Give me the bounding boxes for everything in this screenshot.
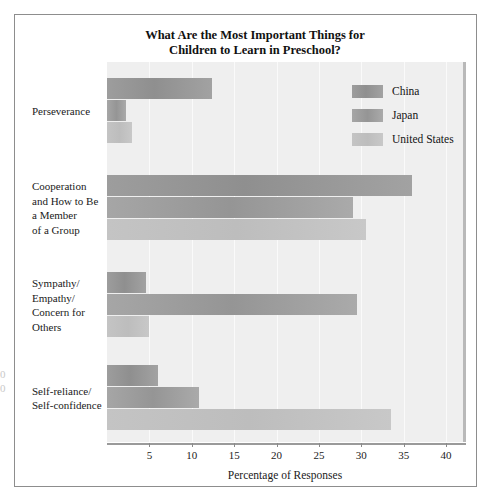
tick-mark-35 — [404, 443, 405, 447]
tick-mark-30 — [361, 443, 362, 447]
tick-mark-5 — [149, 443, 150, 447]
x-tick-label: 10 — [186, 449, 197, 461]
legend-label-united-states: United States — [392, 133, 454, 145]
bar-japan-group-0 — [107, 100, 126, 121]
tick-mark-10 — [192, 443, 193, 447]
bar-japan-group-1 — [107, 197, 353, 218]
chart-title-line-2: Children to Learn in Preschool? — [90, 43, 420, 58]
legend-item-china: China — [352, 79, 462, 103]
category-label-1: Cooperationand How to Bea Memberof a Gro… — [32, 179, 104, 237]
category-label-line: Others — [32, 320, 104, 335]
category-label-line: Self-confidence — [32, 398, 104, 413]
category-label-2: Sympathy/Empathy/Concern forOthers — [32, 276, 104, 334]
x-tick-label: 25 — [313, 449, 324, 461]
legend-item-japan: Japan — [352, 103, 462, 127]
us-swatch-icon — [352, 133, 383, 146]
legend-item-united-states: United States — [352, 127, 462, 151]
legend-label-china: China — [392, 85, 419, 97]
bar-us-group-0 — [107, 122, 132, 143]
tick-mark-15 — [234, 443, 235, 447]
category-label-line: Cooperation — [32, 179, 104, 194]
x-tick-label: 15 — [229, 449, 240, 461]
bar-us-group-3 — [107, 409, 391, 430]
margin-artifact-top: 0 — [0, 368, 5, 380]
margin-artifact-bottom: 0 — [0, 382, 5, 394]
tick-mark-25 — [319, 443, 320, 447]
bar-japan-group-3 — [107, 387, 199, 408]
x-tick-label: 40 — [441, 449, 452, 461]
bar-us-group-1 — [107, 219, 366, 240]
x-axis-line — [107, 443, 466, 445]
japan-swatch-icon — [352, 109, 383, 122]
gridline-25 — [319, 62, 320, 442]
category-label-line: Concern for — [32, 305, 104, 320]
chart-legend: China Japan United States — [352, 79, 462, 151]
x-tick-label: 5 — [147, 449, 153, 461]
tick-mark-40 — [446, 443, 447, 447]
bar-china-group-1 — [107, 175, 412, 196]
category-label-3: Self-reliance/Self-confidence — [32, 384, 104, 413]
gridline-15 — [234, 62, 235, 442]
chart-title-line-1: What Are the Most Important Things for — [90, 28, 420, 43]
category-label-line: a Member — [32, 208, 104, 223]
x-tick-label: 35 — [398, 449, 409, 461]
category-label-line: Self-reliance/ — [32, 384, 104, 399]
category-label-line: Empathy/ — [32, 291, 104, 306]
bar-china-group-0 — [107, 78, 212, 99]
category-label-0: Perseverance — [32, 104, 104, 119]
chart-title: What Are the Most Important Things for C… — [90, 28, 420, 58]
bar-china-group-2 — [107, 272, 146, 293]
bar-japan-group-2 — [107, 294, 357, 315]
gridline-10 — [192, 62, 193, 442]
x-tick-label: 30 — [356, 449, 367, 461]
legend-label-japan: Japan — [392, 109, 418, 121]
category-label-line: of a Group — [32, 223, 104, 238]
x-axis-title: Percentage of Responses — [107, 469, 463, 481]
bar-china-group-3 — [107, 365, 158, 386]
x-tick-label: 20 — [271, 449, 282, 461]
category-label-line: and How to Be — [32, 194, 104, 209]
china-swatch-icon — [352, 85, 383, 98]
category-label-line: Perseverance — [32, 104, 104, 119]
bar-us-group-2 — [107, 316, 149, 337]
category-label-line: Sympathy/ — [32, 276, 104, 291]
tick-mark-20 — [277, 443, 278, 447]
gridline-20 — [277, 62, 278, 442]
